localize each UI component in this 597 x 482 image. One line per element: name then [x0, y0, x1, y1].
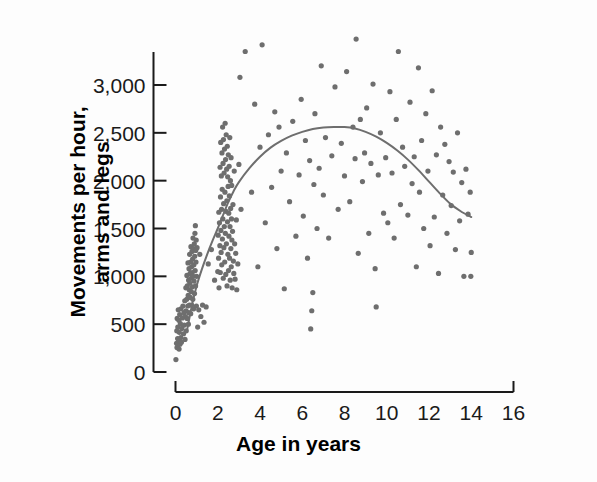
- scatter-point: [219, 250, 224, 255]
- x-tick-label: 12: [417, 402, 440, 423]
- scatter-point: [317, 166, 322, 171]
- scatter-point: [434, 152, 439, 157]
- scatter-point: [296, 172, 301, 177]
- scatter-point: [468, 190, 473, 195]
- scatter-point: [230, 229, 235, 234]
- scatter-point: [373, 266, 378, 271]
- scatter-point: [236, 162, 241, 167]
- scatter-point: [419, 138, 424, 143]
- scatter-point: [233, 251, 238, 256]
- scatter-point: [234, 287, 239, 292]
- scatter-point: [459, 180, 464, 185]
- scatter-point: [198, 314, 203, 319]
- scatter-point: [212, 278, 217, 283]
- scatter-point: [235, 261, 240, 266]
- scatter-point: [366, 231, 371, 236]
- scatter-point: [305, 256, 310, 261]
- scatter-point: [342, 173, 347, 178]
- scatter-point: [347, 199, 352, 204]
- scatter-point: [196, 307, 201, 312]
- scatter-point: [269, 185, 274, 190]
- scatter-point: [352, 156, 357, 161]
- scatter-point: [228, 178, 233, 183]
- x-tick-label: 14: [460, 402, 483, 423]
- scatter-point: [319, 63, 324, 68]
- x-tick-label: 16: [502, 402, 525, 423]
- scatter-point: [229, 264, 234, 269]
- scatter-point: [238, 207, 243, 212]
- scatter-point: [339, 141, 344, 146]
- x-axis-title: Age in years: [0, 432, 597, 456]
- scatter-point: [412, 154, 417, 159]
- x-tick-label: 4: [254, 402, 266, 423]
- scatter-point: [407, 100, 412, 105]
- scatter-point: [307, 158, 312, 163]
- scatter-point: [282, 286, 287, 291]
- scatter-point: [430, 88, 435, 93]
- scatter-point: [389, 170, 394, 175]
- scatter-point: [180, 303, 185, 308]
- scatter-point: [228, 246, 233, 251]
- scatter-point: [385, 220, 390, 225]
- scatter-point: [432, 214, 437, 219]
- scatter-point: [227, 224, 232, 229]
- scatter-point: [231, 258, 236, 263]
- scatter-point: [310, 290, 315, 295]
- scatter-point: [421, 226, 426, 231]
- scatter-point: [290, 119, 295, 124]
- scatter-point: [227, 135, 232, 140]
- scatter-point: [272, 109, 277, 114]
- scatter-point: [303, 138, 308, 143]
- scatter-point: [225, 144, 230, 149]
- scatter-point: [336, 207, 341, 212]
- scatter-point: [425, 169, 430, 174]
- scatter-point: [228, 278, 233, 283]
- scatter-point: [195, 324, 200, 329]
- scatter-point: [457, 218, 462, 223]
- scatter-point: [226, 211, 231, 216]
- scatter-point: [228, 155, 233, 160]
- y-axis-title-line-2: arms and legs: [90, 62, 114, 362]
- scatter-point: [229, 183, 234, 188]
- scatter-point: [266, 132, 271, 137]
- scatter-point: [249, 190, 254, 195]
- scatter-point: [453, 247, 458, 252]
- scatter-point: [227, 164, 232, 169]
- scatter-point: [416, 65, 421, 70]
- scatter-point: [287, 199, 292, 204]
- scatter-point: [237, 75, 242, 80]
- scatter-point: [358, 117, 363, 122]
- scatter-point: [309, 308, 314, 313]
- scatter-point: [279, 169, 284, 174]
- scatter-point: [323, 135, 328, 140]
- scatter-point: [230, 202, 235, 207]
- scatter-point: [284, 150, 289, 155]
- scatter-point: [410, 181, 415, 186]
- scatter-point: [224, 283, 229, 288]
- scatter-point: [396, 49, 401, 54]
- x-tick-label: 10: [375, 402, 398, 423]
- scatter-point: [405, 213, 410, 218]
- scatter-point: [329, 153, 334, 158]
- scatter-point: [414, 264, 419, 269]
- scatter-point: [444, 231, 449, 236]
- scatter-point: [257, 145, 262, 150]
- scatter-plot-figure: 05001,0001,5002,0002,5003,000 0246810121…: [0, 0, 597, 482]
- scatter-point: [223, 157, 228, 162]
- scatter-point: [455, 130, 460, 135]
- scatter-point: [378, 130, 383, 135]
- y-axis-title-line-1: Movements per hour,: [66, 62, 90, 362]
- scatter-point: [194, 245, 199, 250]
- scatter-point: [387, 89, 392, 94]
- scatter-point: [232, 241, 237, 246]
- scatter-point: [204, 304, 209, 309]
- scatter-point: [218, 194, 223, 199]
- scatter-point: [446, 159, 451, 164]
- scatter-point: [362, 150, 367, 155]
- scatter-point: [229, 216, 234, 221]
- scatter-point: [376, 172, 381, 177]
- scatter-point: [276, 124, 281, 129]
- scatter-point: [201, 320, 206, 325]
- scatter-point: [182, 337, 187, 342]
- scatter-point: [193, 223, 198, 228]
